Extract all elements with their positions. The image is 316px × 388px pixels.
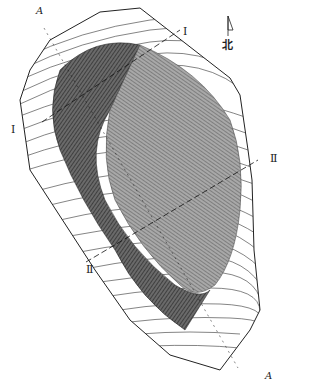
north-label: 北	[222, 40, 233, 51]
label-ii-right: Ⅱ	[270, 153, 277, 164]
label-a-bottom: A	[265, 371, 272, 381]
contour-map	[0, 0, 316, 388]
north-arrow-icon	[228, 16, 233, 36]
label-i-left: Ⅰ	[11, 124, 15, 135]
label-ii-left: Ⅱ	[86, 264, 93, 275]
label-a-top: A	[36, 6, 43, 16]
label-i-top: Ⅰ	[183, 26, 187, 37]
